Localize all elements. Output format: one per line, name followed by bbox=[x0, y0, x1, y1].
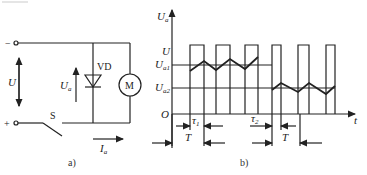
y-axis-label: Ua bbox=[157, 10, 169, 24]
x-axis-label: t bbox=[354, 114, 358, 126]
pwm-pulses-tau1 bbox=[190, 45, 258, 114]
period-label-2: T bbox=[282, 131, 289, 143]
minus-terminal-icon bbox=[14, 41, 18, 45]
armature-voltage-ripple-1 bbox=[190, 57, 258, 71]
origin-label: O bbox=[161, 108, 169, 120]
level-Ua1-label: Ua1 bbox=[155, 58, 170, 72]
level-Ua2-label: Ua2 bbox=[155, 81, 170, 95]
plus-terminal-sign: + bbox=[4, 118, 10, 129]
waveform-chart: Ua t O U Ua1 Ua2 τ1 T τ2 bbox=[152, 10, 358, 169]
tau1-label: τ1 bbox=[192, 114, 199, 128]
motor-label: M bbox=[125, 80, 134, 91]
armature-current-label: Ia bbox=[99, 142, 108, 156]
switch-icon bbox=[43, 123, 62, 136]
source-voltage-label: U bbox=[8, 76, 17, 88]
level-U-label: U bbox=[162, 45, 171, 57]
circuit-diagram: − + S U VD Ua M Ia a) bbox=[4, 38, 141, 169]
minus-terminal-sign: − bbox=[5, 38, 11, 49]
diode-label: VD bbox=[97, 61, 111, 72]
armature-voltage-label: Ua bbox=[60, 79, 72, 93]
switch-label: S bbox=[50, 110, 56, 121]
plus-terminal-icon bbox=[14, 121, 18, 125]
pwm-pulses-tau2 bbox=[272, 45, 335, 114]
figure-b-caption: b) bbox=[240, 157, 248, 169]
figure-a-caption: a) bbox=[68, 157, 76, 169]
dc-chopper-diagram: − + S U VD Ua M Ia a) Ua bbox=[0, 0, 367, 175]
period-label-1: T bbox=[185, 131, 192, 143]
